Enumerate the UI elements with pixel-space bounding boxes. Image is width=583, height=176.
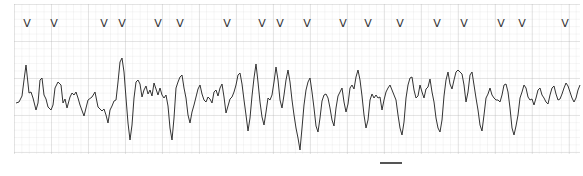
ecg-waveform [0,0,583,176]
ecg-trace [16,58,580,150]
calibration-scale-bar [380,162,402,164]
ecg-strip: VVVVVVVVVVVVVVVVVV [0,0,583,176]
